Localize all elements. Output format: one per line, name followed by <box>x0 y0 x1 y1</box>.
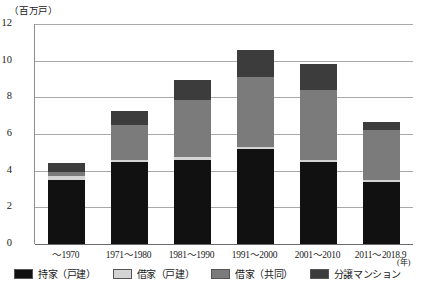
bar-segment <box>300 162 337 245</box>
bar-segment <box>111 162 148 244</box>
bar-segment <box>111 125 148 160</box>
x-category-label: 1991〜2000 <box>225 247 285 261</box>
y-tick-label-4: 4 <box>7 165 12 176</box>
legend-swatch-icon <box>14 269 33 279</box>
bar-slot <box>231 24 281 244</box>
legend-item[interactable]: 持家（戸建） <box>14 266 96 281</box>
legend-label: 借家（戸建） <box>137 266 195 281</box>
gridline-0 <box>35 244 413 245</box>
bar-segment <box>237 149 274 244</box>
stacked-bar[interactable] <box>363 122 400 244</box>
bar-segment <box>363 182 400 244</box>
y-tick-label-6: 6 <box>7 128 12 139</box>
bar-segment <box>174 80 211 100</box>
y-tick-label-0: 0 <box>7 238 12 249</box>
chart-legend: 持家（戸建）借家（戸建）借家（共同）分譲マンション <box>14 266 414 281</box>
bar-segment <box>300 90 337 160</box>
x-axis-category-labels: 〜19701971〜19801981〜19901991〜20002001〜201… <box>34 247 412 261</box>
x-category-label: 1981〜1990 <box>162 247 222 261</box>
y-axis-unit-label: （百万戸） <box>9 3 58 17</box>
bar-segment <box>237 77 274 147</box>
bar-segment <box>111 111 148 125</box>
bar-slot <box>168 24 218 244</box>
stacked-bar[interactable] <box>237 50 274 244</box>
bar-segment <box>48 180 85 244</box>
y-tick-label-12: 12 <box>2 18 13 29</box>
y-tick-label-10: 10 <box>2 55 13 66</box>
y-tick-label-2: 2 <box>7 201 12 212</box>
legend-swatch-icon <box>211 269 230 279</box>
legend-item[interactable]: 借家（戸建） <box>113 266 195 281</box>
legend-label: 持家（戸建） <box>38 266 96 281</box>
stacked-bar[interactable] <box>111 111 148 244</box>
stacked-bar-chart: （百万戸） 024681012 〜19701971〜19801981〜19901… <box>0 0 426 291</box>
bar-slot <box>294 24 344 244</box>
legend-item[interactable]: 借家（共同） <box>211 266 293 281</box>
bar-segment <box>363 130 400 180</box>
bar-slot <box>105 24 155 244</box>
x-category-label: 2001〜2010 <box>288 247 348 261</box>
bar-segment <box>237 50 274 78</box>
legend-label: 借家（共同） <box>235 266 293 281</box>
x-category-label: 1971〜1980 <box>99 247 159 261</box>
legend-item[interactable]: 分譲マンション <box>310 266 401 281</box>
bar-group <box>35 24 413 244</box>
legend-swatch-icon <box>310 269 329 279</box>
bar-segment <box>174 160 211 244</box>
stacked-bar[interactable] <box>300 64 337 244</box>
bar-segment <box>174 100 211 157</box>
y-tick-label-8: 8 <box>7 91 12 102</box>
bar-slot <box>42 24 92 244</box>
stacked-bar[interactable] <box>48 163 85 244</box>
bar-segment <box>48 163 85 171</box>
stacked-bar[interactable] <box>174 80 211 244</box>
x-category-label: 〜1970 <box>36 247 96 261</box>
plot-area <box>34 24 412 244</box>
legend-swatch-icon <box>113 269 132 279</box>
legend-label: 分譲マンション <box>334 266 401 281</box>
bar-slot <box>357 24 407 244</box>
bar-segment <box>300 64 337 90</box>
bar-segment <box>363 122 400 130</box>
